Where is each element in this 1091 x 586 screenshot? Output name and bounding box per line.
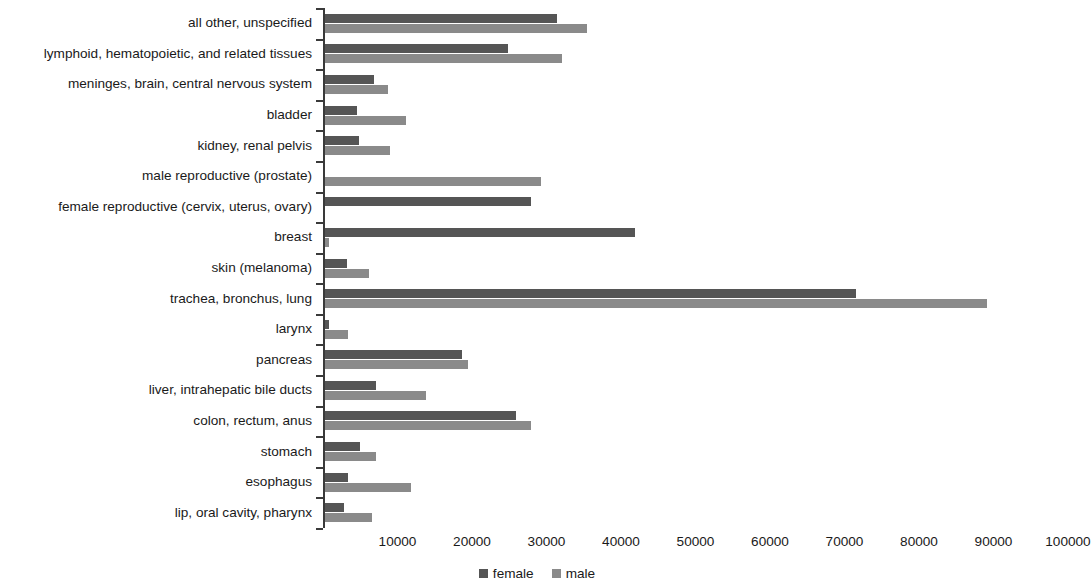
bar-male xyxy=(325,513,372,522)
bar-male xyxy=(325,421,531,430)
bar-male xyxy=(325,54,562,63)
category-label: male reproductive (prostate) xyxy=(0,168,312,184)
bar-female xyxy=(325,320,329,329)
bar-male xyxy=(325,116,406,125)
bar-female xyxy=(325,350,462,359)
category-label: kidney, renal pelvis xyxy=(0,138,312,154)
y-axis-tick xyxy=(316,8,323,10)
x-axis-tick-label: 40000 xyxy=(602,534,640,549)
y-axis-tick xyxy=(316,436,323,438)
legend-item-male: male xyxy=(552,566,595,581)
category-label: larynx xyxy=(0,321,312,337)
y-axis-tick xyxy=(316,253,323,255)
x-axis-tick-label: 50000 xyxy=(677,534,715,549)
bar-female xyxy=(325,473,348,482)
y-axis-tick xyxy=(316,130,323,132)
bar-male xyxy=(325,146,390,155)
category-label: breast xyxy=(0,229,312,245)
bar-male xyxy=(325,391,426,400)
x-axis-tick-label: 70000 xyxy=(826,534,864,549)
y-axis-tick xyxy=(316,69,323,71)
category-label: pancreas xyxy=(0,352,312,368)
bar-female xyxy=(325,14,557,23)
bar-male xyxy=(325,299,987,308)
x-axis-labels: 1000020000300004000050000600007000080000… xyxy=(323,528,1068,554)
y-axis-tick xyxy=(316,467,323,469)
y-axis-tick xyxy=(316,100,323,102)
x-axis-tick-label: 60000 xyxy=(751,534,789,549)
category-label: esophagus xyxy=(0,474,312,490)
bar-male xyxy=(325,483,411,492)
y-axis-tick xyxy=(316,375,323,377)
bar-female xyxy=(325,411,516,420)
y-axis-tick xyxy=(316,222,323,224)
bar-female xyxy=(325,289,856,298)
category-label: trachea, bronchus, lung xyxy=(0,291,312,307)
x-axis-tick-label: 20000 xyxy=(453,534,491,549)
category-label: bladder xyxy=(0,107,312,123)
bar-female xyxy=(325,381,376,390)
legend-label: male xyxy=(566,566,595,581)
x-axis-tick-label: 90000 xyxy=(975,534,1013,549)
bar-male xyxy=(325,360,468,369)
bar-male xyxy=(325,452,376,461)
bar-female xyxy=(325,259,347,268)
category-axis-labels: all other, unspecifiedlymphoid, hematopo… xyxy=(0,8,316,528)
bar-female xyxy=(325,442,360,451)
category-label: all other, unspecified xyxy=(0,15,312,31)
bar-female xyxy=(325,106,357,115)
plot-area xyxy=(323,8,1068,528)
bar-female xyxy=(325,228,635,237)
y-axis-tick xyxy=(316,314,323,316)
bar-male xyxy=(325,85,388,94)
x-axis-tick-label: 100000 xyxy=(1045,534,1090,549)
category-label: meninges, brain, central nervous system xyxy=(0,76,312,92)
category-label: lip, oral cavity, pharynx xyxy=(0,505,312,521)
bar-female xyxy=(325,197,531,206)
y-axis-tick xyxy=(316,344,323,346)
category-label: lymphoid, hematopoietic, and related tis… xyxy=(0,46,312,62)
bar-male xyxy=(325,330,348,339)
category-label: liver, intrahepatic bile ducts xyxy=(0,382,312,398)
bar-female xyxy=(325,503,344,512)
y-axis-tick xyxy=(316,39,323,41)
x-axis-tick-label: 10000 xyxy=(379,534,417,549)
y-axis-tick xyxy=(316,161,323,163)
bar-female xyxy=(325,75,374,84)
bar-female xyxy=(325,44,508,53)
legend-label: female xyxy=(493,566,534,581)
category-label: stomach xyxy=(0,444,312,460)
legend-swatch-male-icon xyxy=(552,569,561,578)
category-label: skin (melanoma) xyxy=(0,260,312,276)
y-axis-tick xyxy=(316,528,323,530)
category-label: female reproductive (cervix, uterus, ova… xyxy=(0,199,312,215)
bar-male xyxy=(325,24,587,33)
legend-swatch-female-icon xyxy=(479,569,488,578)
bar-male xyxy=(325,238,329,247)
y-axis-tick xyxy=(316,192,323,194)
category-label: colon, rectum, anus xyxy=(0,413,312,429)
chart-legend: femalemale xyxy=(0,562,1074,584)
y-axis-tick xyxy=(316,406,323,408)
y-axis-tick xyxy=(316,497,323,499)
bar-female xyxy=(325,136,359,145)
bar-male xyxy=(325,177,541,186)
y-axis-tick xyxy=(316,283,323,285)
legend-item-female: female xyxy=(479,566,534,581)
x-axis-tick-label: 80000 xyxy=(900,534,938,549)
bar-male xyxy=(325,269,369,278)
x-axis-tick-label: 30000 xyxy=(528,534,566,549)
